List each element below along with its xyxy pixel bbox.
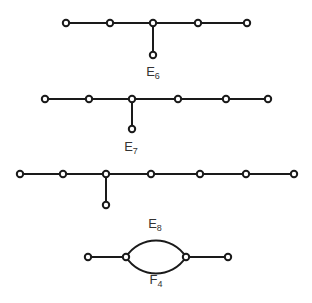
node <box>129 96 135 102</box>
node <box>123 254 129 260</box>
label-e6: E6 <box>146 64 160 81</box>
label-e7: E7 <box>124 139 138 156</box>
node <box>265 96 271 102</box>
node <box>17 171 23 177</box>
node <box>243 171 249 177</box>
node <box>225 254 231 260</box>
node <box>150 52 156 58</box>
node <box>85 254 91 260</box>
node <box>103 171 109 177</box>
label-e8: E8 <box>148 216 162 233</box>
node <box>86 96 92 102</box>
label-f4: F4 <box>150 272 163 289</box>
node <box>197 171 203 177</box>
node <box>150 20 156 26</box>
node <box>195 20 201 26</box>
node <box>63 20 69 26</box>
node <box>42 96 48 102</box>
diagram-e7 <box>42 96 271 132</box>
node <box>223 96 229 102</box>
double-edge-arc <box>126 241 186 258</box>
diagram-e6 <box>63 20 250 58</box>
diagram-f4 <box>85 241 231 274</box>
diagram-e8 <box>17 171 297 208</box>
node <box>148 171 154 177</box>
node <box>103 202 109 208</box>
node <box>291 171 297 177</box>
dynkin-diagrams-canvas <box>0 0 312 303</box>
node <box>60 171 66 177</box>
node <box>129 126 135 132</box>
node <box>244 20 250 26</box>
node <box>107 20 113 26</box>
node <box>183 254 189 260</box>
node <box>175 96 181 102</box>
